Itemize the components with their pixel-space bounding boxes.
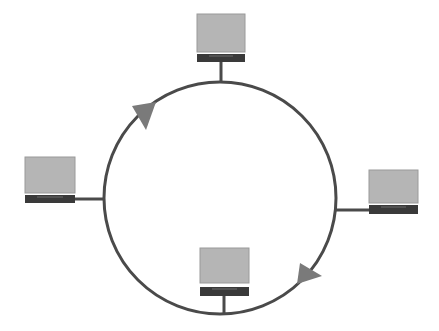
computer-nodes (25, 14, 418, 296)
computer-icon-bottom (200, 248, 249, 296)
computer-base (25, 195, 75, 203)
computer-base (200, 287, 249, 296)
monitor-screen (197, 14, 245, 52)
monitor-screen (200, 248, 249, 283)
ring-network-diagram (0, 0, 439, 331)
monitor-screen (369, 170, 418, 203)
computer-icon-top (197, 14, 245, 62)
computer-icon-left (25, 157, 75, 203)
computer-base (369, 205, 418, 214)
computer-base (197, 54, 245, 62)
arrow-lower-right-icon (297, 263, 322, 284)
arrow-upper-left-icon (132, 102, 156, 130)
computer-icon-right (369, 170, 418, 214)
monitor-screen (25, 157, 75, 193)
